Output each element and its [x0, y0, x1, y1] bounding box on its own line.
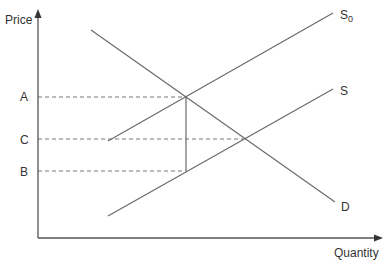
y-axis-label: Price [5, 13, 33, 27]
x-axis-label: Quantity [334, 246, 379, 260]
demand-curve-d [91, 30, 335, 202]
price-label-b: B [20, 165, 28, 179]
supply-curve-s [108, 89, 333, 216]
label-s: S [340, 84, 348, 98]
label-d: D [341, 200, 350, 214]
y-axis-arrow-icon [35, 9, 42, 18]
price-label-a: A [20, 90, 28, 104]
x-axis-arrow-icon [374, 235, 383, 242]
price-label-c: C [20, 133, 29, 147]
supply-demand-diagram: Price Quantity A C B S0 S D [0, 0, 389, 266]
label-s0: S0 [340, 8, 353, 24]
